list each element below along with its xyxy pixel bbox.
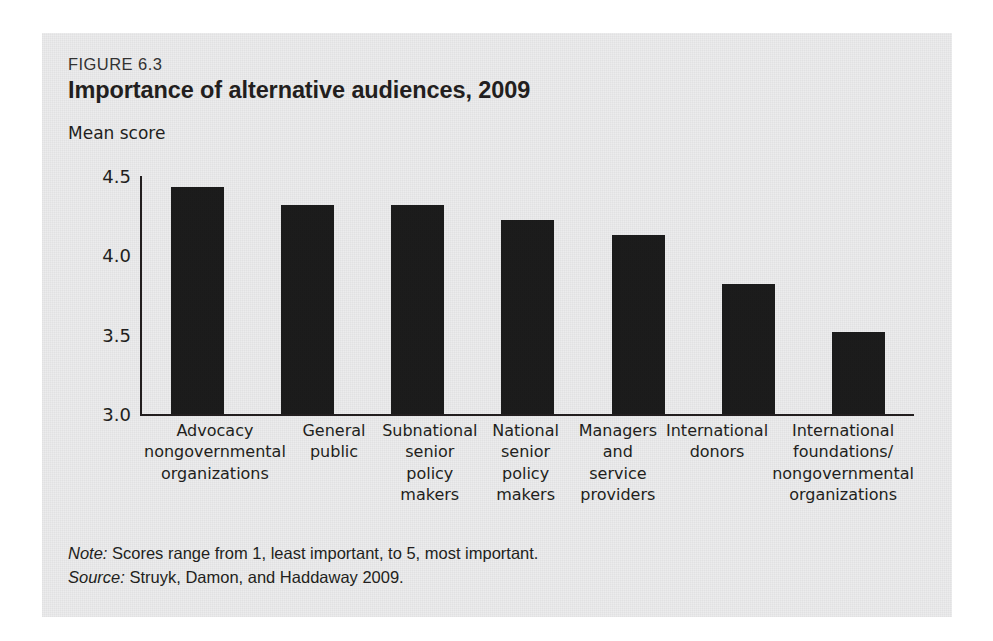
bar-slot [142, 176, 252, 414]
category-label-line: Advocacy [144, 420, 286, 441]
note-text: Scores range from 1, least important, to… [107, 544, 538, 562]
note-line: Note: Scores range from 1, least importa… [68, 542, 538, 565]
bar [171, 187, 224, 414]
category-label-line: International [772, 420, 914, 441]
figure-footnotes: Note: Scores range from 1, least importa… [68, 542, 538, 589]
category-label-line: foundations/ [772, 441, 914, 462]
category-label-line: Managers [574, 420, 662, 441]
category-label-line: providers [574, 484, 662, 505]
figure-panel: FIGURE 6.3 Importance of alternative aud… [42, 33, 952, 617]
figure-title: Importance of alternative audiences, 200… [68, 77, 530, 104]
plot-area: 3.03.54.04.5 [140, 176, 914, 414]
y-axis-tick-4.5: 4.5 [102, 166, 131, 187]
bar [501, 220, 554, 414]
bar [832, 332, 885, 415]
category-label-line: nongovernmental [772, 463, 914, 484]
category-label: Internationalfoundations/nongovernmental… [770, 420, 916, 505]
bar-slot [583, 176, 693, 414]
category-label-line: senior [481, 441, 569, 462]
bar-slot [693, 176, 803, 414]
category-label-line: General [290, 420, 378, 441]
category-label-line: International [666, 420, 768, 441]
category-label-line: nongovernmental [144, 441, 286, 462]
source-label: Source: [68, 568, 125, 586]
source-text: Struyk, Damon, and Haddaway 2009. [125, 568, 404, 586]
category-label-line: Subnational [382, 420, 477, 441]
category-label-line: National [481, 420, 569, 441]
category-label: Nationalseniorpolicy makers [479, 420, 571, 505]
category-label: Advocacynongovernmentalorganizations [142, 420, 288, 484]
category-label-line: senior [382, 441, 477, 462]
figure-number-label: FIGURE 6.3 [68, 55, 162, 74]
category-label-line: organizations [144, 463, 286, 484]
category-label-line: donors [666, 441, 768, 462]
category-label-line: organizations [772, 484, 914, 505]
y-axis-tick-4.0: 4.0 [102, 245, 131, 266]
source-line: Source: Struyk, Damon, and Haddaway 2009… [68, 566, 538, 589]
y-axis-tick-3.0: 3.0 [102, 404, 131, 425]
category-label-line: public [290, 441, 378, 462]
category-label: Managersand serviceproviders [572, 420, 664, 505]
note-label: Note: [68, 544, 107, 562]
bar-slot [804, 176, 914, 414]
bar-slot [473, 176, 583, 414]
y-axis-title: Mean score [68, 123, 165, 143]
y-axis-tick-3.5: 3.5 [102, 324, 131, 345]
bar-slot [363, 176, 473, 414]
category-label: Generalpublic [288, 420, 380, 463]
x-axis-line [140, 414, 914, 416]
bar-slot [252, 176, 362, 414]
bar [391, 205, 444, 414]
bar [281, 205, 334, 414]
category-label-line: policy makers [481, 463, 569, 506]
bar [612, 235, 665, 414]
bar-series [142, 176, 914, 414]
bar [722, 284, 775, 414]
category-label-line: policy makers [382, 463, 477, 506]
x-axis-category-labels: AdvocacynongovernmentalorganizationsGene… [142, 420, 916, 505]
category-label: Subnationalseniorpolicy makers [380, 420, 479, 505]
category-label: Internationaldonors [664, 420, 770, 463]
category-label-line: and service [574, 441, 662, 484]
